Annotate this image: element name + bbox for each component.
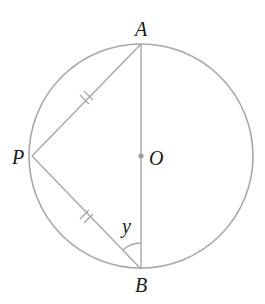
chord-PA bbox=[32, 44, 141, 156]
label-P: P bbox=[11, 146, 24, 168]
angle-arc-y bbox=[123, 243, 141, 250]
tick-marks-PB bbox=[80, 210, 93, 223]
circle-diagram: A B P O y bbox=[0, 0, 265, 304]
center-dot bbox=[138, 153, 143, 158]
label-A: A bbox=[133, 18, 148, 40]
tick-marks-PA bbox=[80, 91, 93, 104]
label-B: B bbox=[135, 274, 147, 296]
label-O: O bbox=[149, 147, 163, 169]
angle-label-y: y bbox=[120, 215, 131, 238]
